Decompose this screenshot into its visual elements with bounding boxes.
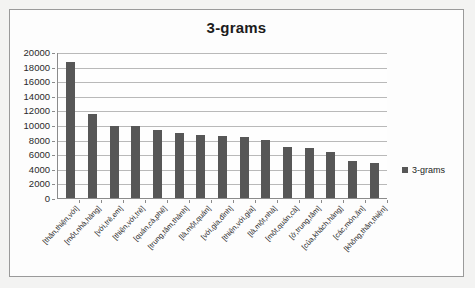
x-axis-tick-mark	[79, 200, 80, 203]
chart-frame: 3-grams 20000180001600014000120001000080…	[9, 9, 464, 277]
bar-slot	[147, 53, 169, 198]
x-axis-tick-mark	[387, 200, 388, 203]
bar-slot	[363, 53, 385, 198]
bar-slot	[125, 53, 147, 198]
bar-series	[58, 53, 387, 198]
bar[interactable]	[196, 135, 205, 198]
y-axis-tick-mark	[52, 126, 55, 127]
y-axis-tick-mark	[52, 155, 55, 156]
x-axis-labels: [thân,thiện,với][một,nhà,hàng][với,trẻ,e…	[57, 200, 387, 278]
y-axis-tick-mark	[52, 53, 55, 54]
y-axis-tick-mark	[52, 199, 55, 200]
chart-title: 3-grams	[10, 19, 463, 36]
bar-slot	[190, 53, 212, 198]
y-axis-tick-mark	[52, 82, 55, 83]
y-axis-tick-label: 4000	[29, 165, 50, 175]
bar[interactable]	[326, 152, 335, 198]
bar-slot	[103, 53, 125, 198]
bar[interactable]	[131, 126, 140, 198]
x-axis-tick-mark	[211, 200, 212, 203]
plot-area-wrapper	[57, 53, 387, 199]
bar[interactable]	[110, 126, 119, 198]
x-axis-tick-mark	[365, 200, 366, 203]
x-axis-tick-mark	[101, 200, 102, 203]
bar-slot	[212, 53, 234, 198]
y-axis-tick-label: 18000	[24, 63, 50, 73]
y-axis-tick-label: 14000	[24, 92, 50, 102]
y-axis: 2000018000160001400012000100008000600040…	[10, 47, 55, 205]
y-axis-tick-label: 10000	[24, 121, 50, 131]
bar[interactable]	[218, 136, 227, 198]
x-axis-tick-mark	[321, 200, 322, 203]
bar[interactable]	[283, 147, 292, 198]
y-axis-tick-mark	[52, 111, 55, 112]
y-axis-tick-mark	[52, 184, 55, 185]
bar[interactable]	[348, 161, 357, 198]
bar-slot	[342, 53, 364, 198]
x-axis-tick-mark	[167, 200, 168, 203]
bar-slot	[277, 53, 299, 198]
bar[interactable]	[88, 114, 97, 198]
x-axis-tick-mark	[189, 200, 190, 203]
bar-slot	[298, 53, 320, 198]
x-axis-tick-mark	[277, 200, 278, 203]
x-axis-tick-mark	[255, 200, 256, 203]
plot-area	[57, 53, 387, 199]
y-axis-tick-label: 12000	[24, 106, 50, 116]
legend-label: 3-grams	[412, 165, 445, 175]
y-axis-tick-label: 6000	[29, 150, 50, 160]
chart-legend: 3-grams	[402, 165, 445, 175]
x-axis-tick-mark	[233, 200, 234, 203]
x-axis-tick-mark	[145, 200, 146, 203]
bar-slot	[60, 53, 82, 198]
bar-slot	[233, 53, 255, 198]
y-axis-tick-mark	[52, 141, 55, 142]
chart-screenshot: 3-grams 20000180001600014000120001000080…	[0, 0, 475, 288]
y-axis-tick-mark	[52, 68, 55, 69]
y-axis-tick-label: 2000	[29, 179, 50, 189]
bar[interactable]	[66, 62, 75, 199]
bar[interactable]	[370, 163, 379, 198]
x-axis-tick-mark	[299, 200, 300, 203]
y-axis-tick-label: 0	[45, 194, 50, 204]
bar-slot	[320, 53, 342, 198]
y-axis-tick-label: 20000	[24, 48, 50, 58]
y-axis-tick-mark	[52, 170, 55, 171]
bar-slot	[168, 53, 190, 198]
bar[interactable]	[240, 137, 249, 198]
x-axis-tick-mark	[123, 200, 124, 203]
bar[interactable]	[175, 133, 184, 198]
bar-slot	[82, 53, 104, 198]
bar[interactable]	[305, 148, 314, 198]
bar[interactable]	[153, 130, 162, 198]
legend-square-marker-icon	[402, 167, 408, 173]
y-axis-tick-label: 16000	[24, 77, 50, 87]
bar-slot	[255, 53, 277, 198]
y-axis-tick-label: 8000	[29, 136, 50, 146]
y-axis-tick-mark	[52, 97, 55, 98]
x-axis-tick-mark	[343, 200, 344, 203]
bar[interactable]	[261, 140, 270, 198]
